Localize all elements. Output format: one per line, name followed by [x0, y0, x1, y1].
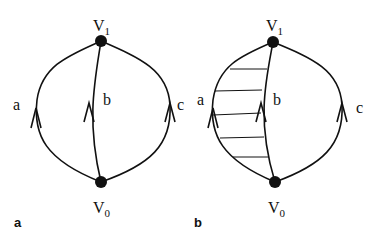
- edge-c-label: c: [356, 99, 363, 116]
- edge-c: [101, 41, 170, 182]
- vertex-v0: [95, 176, 107, 188]
- figure: V1 V0 a b c a V1 V0 a b c b: [0, 0, 377, 237]
- edge-c: [273, 42, 342, 182]
- panel-b-caption: b: [194, 215, 202, 230]
- panel-a-caption: a: [14, 215, 22, 230]
- edge-b: [93, 41, 101, 182]
- vertex-v0-label: V0: [93, 199, 111, 219]
- vertex-v1: [267, 36, 279, 48]
- edge-a-label: a: [13, 96, 20, 113]
- edge-a-label: a: [197, 91, 204, 108]
- panel-b: [208, 42, 347, 182]
- edge-c-label: c: [177, 96, 184, 113]
- edge-b-label: b: [273, 91, 281, 108]
- panel-a: [31, 41, 175, 182]
- vertex-v1-label: V1: [266, 17, 283, 37]
- vertex-v1-label: V1: [93, 17, 110, 37]
- vertex-v0: [269, 176, 281, 188]
- edge-b: [264, 42, 275, 182]
- vertex-v0-label: V0: [268, 199, 286, 219]
- edge-a: [212, 42, 275, 182]
- edge-b-label: b: [103, 91, 111, 108]
